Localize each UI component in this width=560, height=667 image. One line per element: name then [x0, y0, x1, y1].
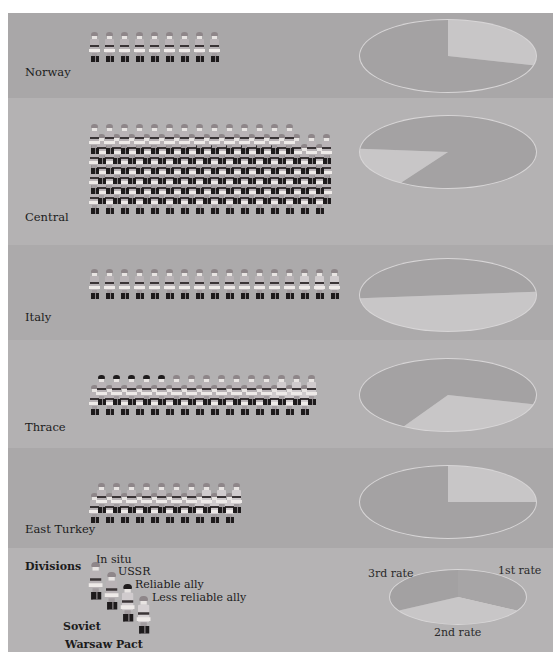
pie-label-3rd-rate: 3rd rate	[368, 567, 414, 580]
soldier-icon	[187, 483, 196, 513]
soldier-icon	[142, 483, 151, 513]
soldier-icon	[240, 124, 249, 154]
soldier-icon	[315, 269, 324, 299]
band-norway: Norway	[8, 13, 553, 98]
soldier-icon	[105, 124, 114, 154]
soldier-icon	[97, 483, 106, 513]
legend-group-warsaw-pact: Warsaw Pact	[65, 638, 143, 651]
soldier-icon	[97, 375, 106, 405]
soldier-icon	[217, 375, 226, 405]
soldier-icon	[195, 32, 204, 62]
region-label-central: Central	[25, 210, 69, 224]
soldier-icon	[165, 124, 174, 154]
soldier-icon	[285, 269, 294, 299]
legend-item-ussr: USSR	[118, 565, 150, 578]
soldier-icon	[187, 375, 196, 405]
soldier-icon	[90, 124, 99, 154]
region-label-italy: Italy	[25, 310, 51, 324]
soldier-icon	[165, 32, 174, 62]
pie-central	[358, 114, 538, 194]
soldier-icon	[138, 596, 149, 634]
soldier-icon	[157, 483, 166, 513]
soldier-icon	[180, 32, 189, 62]
soldier-icon	[285, 124, 294, 154]
soldier-icon	[105, 32, 114, 62]
band-italy: Italy	[8, 245, 553, 340]
pie-slice	[448, 466, 536, 502]
soldier-icon	[210, 124, 219, 154]
soldier-icon	[150, 269, 159, 299]
pie-east-turkey	[358, 464, 538, 544]
pie-thrace	[358, 357, 538, 437]
soldier-icon	[240, 269, 249, 299]
soldier-icon	[210, 32, 219, 62]
soldier-icon	[135, 32, 144, 62]
soldier-icon	[90, 562, 101, 600]
soldier-icon	[135, 269, 144, 299]
region-label-thrace: Thrace	[25, 420, 66, 434]
soldier-icon	[210, 269, 219, 299]
soldier-icon	[300, 269, 309, 299]
soldier-icon	[120, 124, 129, 154]
soldier-icon	[165, 269, 174, 299]
soldier-icon	[172, 483, 181, 513]
soldier-icon	[150, 32, 159, 62]
soldier-icon	[112, 375, 121, 405]
soldier-icon	[247, 375, 256, 405]
soldier-icon	[232, 375, 241, 405]
soldier-icon	[270, 124, 279, 154]
soldier-icon	[277, 375, 286, 405]
pie-italy	[358, 257, 538, 337]
soldier-icon	[172, 375, 181, 405]
region-label-east-turkey: East Turkey	[25, 522, 95, 536]
legend-title: Divisions	[25, 560, 81, 573]
soldier-icon	[106, 572, 117, 610]
soldier-icon	[202, 375, 211, 405]
soldier-icon	[180, 269, 189, 299]
soldier-icon	[135, 124, 144, 154]
legend-group-soviet: Soviet	[63, 620, 101, 633]
soldier-icon	[322, 134, 331, 164]
region-label-norway: Norway	[25, 65, 71, 79]
soldier-icon	[157, 375, 166, 405]
soldier-icon	[150, 124, 159, 154]
pie-norway	[358, 18, 538, 98]
pie-slice	[360, 292, 536, 331]
legend-band: Divisions In situ USSR Reliable ally Les…	[8, 548, 553, 652]
soldier-icon	[127, 483, 136, 513]
soldier-icon	[292, 375, 301, 405]
soldier-icon	[195, 124, 204, 154]
soldier-icon	[112, 483, 121, 513]
soldier-icon	[217, 483, 226, 513]
infographic-frame: Norway Central Italy Thrace East Turkey …	[8, 13, 553, 652]
soldier-icon	[330, 269, 339, 299]
soldier-icon	[127, 375, 136, 405]
legend-item-less-reliable-ally: Less reliable ally	[152, 591, 246, 604]
soldier-icon	[180, 124, 189, 154]
soldier-icon	[142, 375, 151, 405]
band-east-turkey: East Turkey	[8, 448, 553, 548]
soldier-icon	[225, 269, 234, 299]
soldier-icon	[307, 375, 316, 405]
soldier-icon	[195, 269, 204, 299]
soldier-icon	[90, 269, 99, 299]
soldier-icon	[255, 269, 264, 299]
soldier-icon	[120, 269, 129, 299]
pie-label-1st-rate: 1st rate	[498, 564, 541, 577]
pie-slice	[360, 259, 536, 298]
soldier-icon	[122, 584, 133, 622]
soldier-icon	[232, 483, 241, 513]
soldier-icon	[120, 32, 129, 62]
soldier-icon	[270, 269, 279, 299]
soldier-icon	[307, 134, 316, 164]
soldier-icon	[202, 483, 211, 513]
soldier-icon	[225, 124, 234, 154]
pie-label-2nd-rate: 2nd rate	[434, 626, 481, 639]
soldier-icon	[262, 375, 271, 405]
band-thrace: Thrace	[8, 340, 553, 448]
soldier-icon	[105, 269, 114, 299]
legend-item-reliable-ally: Reliable ally	[135, 578, 204, 591]
soldier-icon	[90, 32, 99, 62]
soldier-icon	[255, 124, 264, 154]
band-central: Central	[8, 98, 553, 245]
